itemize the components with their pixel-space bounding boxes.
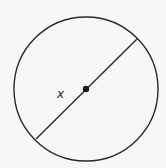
diagram-canvas: x: [0, 0, 166, 168]
circle-diagram: x: [0, 0, 166, 168]
segment-label: x: [56, 87, 65, 101]
center-point: [83, 86, 89, 92]
